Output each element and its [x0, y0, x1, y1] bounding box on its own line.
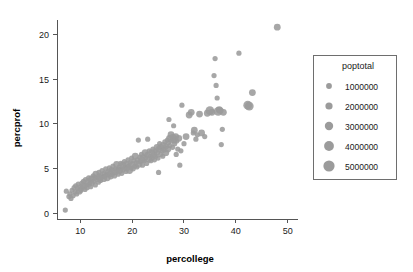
data-points-layer	[63, 24, 281, 213]
data-point	[193, 137, 198, 142]
data-point	[220, 109, 227, 116]
y-tick-label: 5	[44, 164, 49, 174]
legend-marker-2000000	[325, 102, 332, 109]
chart-canvas: 1020304050 05101520 percollege percprof …	[0, 0, 413, 272]
data-point	[212, 56, 217, 61]
legend-label-3000000: 3000000	[345, 122, 378, 132]
data-point	[175, 135, 182, 142]
data-point	[178, 148, 183, 153]
legend-marker-3000000	[325, 122, 333, 130]
data-point	[274, 24, 281, 31]
data-point	[181, 141, 186, 146]
data-point	[236, 51, 241, 56]
y-tick-label: 15	[39, 75, 49, 85]
y-tick-label: 10	[39, 119, 49, 129]
y-tick-label: 20	[39, 30, 49, 40]
y-tick-label: 0	[44, 209, 49, 219]
data-point	[183, 133, 190, 140]
data-point	[202, 134, 207, 139]
legend: poptotal 1000000200000030000004000000500…	[314, 56, 397, 180]
data-point	[215, 95, 220, 100]
y-axis-ticks: 05101520	[39, 30, 57, 219]
x-tick-label: 30	[179, 226, 189, 236]
legend-label-5000000: 5000000	[345, 162, 378, 172]
x-axis-ticks: 1020304050	[75, 219, 292, 236]
data-point	[214, 83, 219, 88]
legend-label-2000000: 2000000	[345, 102, 378, 112]
legend-marker-5000000	[323, 160, 334, 171]
legend-label-1000000: 1000000	[345, 82, 378, 92]
data-point	[249, 89, 256, 96]
legend-marker-1000000	[326, 83, 332, 89]
data-point	[174, 152, 179, 157]
data-point	[177, 163, 182, 168]
x-tick-label: 20	[127, 226, 137, 236]
legend-title: poptotal	[342, 61, 374, 71]
x-axis-title: percollege	[166, 253, 214, 264]
data-point	[220, 127, 225, 132]
legend-marker-4000000	[324, 141, 334, 151]
scatter-plot-figure: 1020304050 05101520 percollege percprof …	[0, 0, 413, 272]
data-point	[179, 103, 184, 108]
data-point	[188, 109, 195, 116]
y-axis-title: percprof	[11, 108, 22, 147]
data-point	[196, 111, 203, 118]
data-point	[245, 102, 254, 111]
legend-label-4000000: 4000000	[345, 142, 378, 152]
data-point	[166, 117, 171, 122]
data-point	[211, 73, 216, 78]
data-point	[156, 170, 161, 175]
data-point	[171, 123, 176, 128]
x-tick-label: 10	[75, 226, 85, 236]
data-point	[219, 142, 224, 147]
data-point	[63, 207, 68, 212]
data-point	[145, 137, 150, 142]
data-point	[136, 138, 141, 143]
x-tick-label: 40	[231, 226, 241, 236]
axes-layer	[57, 20, 298, 219]
x-tick-label: 50	[283, 226, 293, 236]
